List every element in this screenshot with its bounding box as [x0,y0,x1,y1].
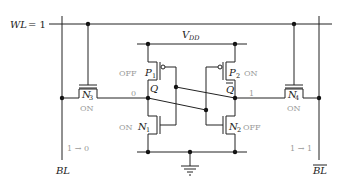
n1-state: ON [119,123,133,132]
svg-text:3: 3 [89,94,93,102]
vdd-subscript: DD [188,34,200,42]
n2-state: OFF [243,123,261,132]
svg-text:2: 2 [237,126,241,134]
transistor-p1: OFF P 1 [119,44,176,98]
word-line: WL = 1 [10,19,332,30]
n4-state: ON [287,104,301,113]
blb-transition: 1 → 1 [290,144,312,153]
blb-label: BL [312,165,327,176]
p2-state: ON [244,69,258,78]
svg-text:1: 1 [152,72,156,80]
transistor-n1: ON N 1 [119,98,176,152]
svg-text:2: 2 [236,72,240,80]
q-value: 0 [131,89,136,98]
bl-label: BL [55,165,70,176]
svg-text:4: 4 [295,94,299,102]
bl-transition: 1 → 0 [67,144,89,153]
svg-text:P: P [228,67,236,78]
wl-label: WL [10,19,27,30]
svg-text:1: 1 [146,126,150,134]
node-q-bar: Q 1 [226,83,254,98]
ground-rail [137,150,247,166]
q-bar-value: 1 [249,89,254,98]
svg-text:P: P [144,67,152,78]
vdd-rail: V DD [137,29,247,46]
cross-coupling [146,87,237,110]
svg-text:Q: Q [226,84,234,95]
ground-icon [181,166,199,175]
node-q: Q 0 [131,83,158,98]
n3-state: ON [80,104,94,113]
sram-cell-diagram: WL = 1 1 → 0 BL 1 → 1 BL V DD [0,0,340,187]
transistor-n2: N 2 OFF [206,98,261,152]
svg-text:Q: Q [150,83,158,94]
wl-value: = 1 [28,19,46,30]
p1-state: OFF [119,69,137,78]
